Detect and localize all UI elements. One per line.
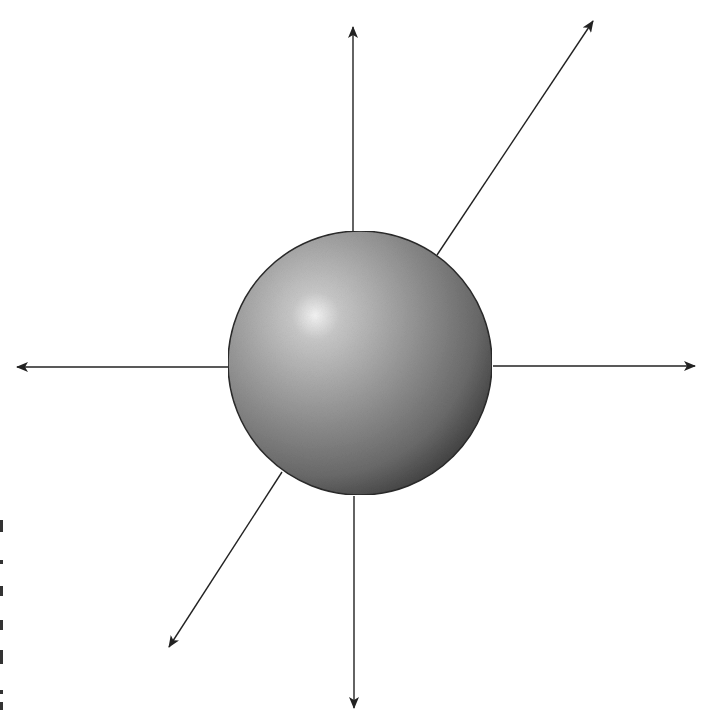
sphere-body <box>228 231 492 495</box>
edge-mark <box>0 650 3 664</box>
edge-mark <box>0 586 3 596</box>
edge-mark <box>0 520 3 532</box>
edge-mark <box>0 560 3 564</box>
edge-mark <box>0 690 3 694</box>
arrow-up-right <box>437 21 593 255</box>
sphere <box>228 231 492 495</box>
edge-mark <box>0 620 3 630</box>
sphere-diagram <box>0 0 706 710</box>
left-edge-marks <box>0 520 4 710</box>
edge-mark <box>0 702 3 710</box>
arrow-down-left <box>169 472 282 647</box>
